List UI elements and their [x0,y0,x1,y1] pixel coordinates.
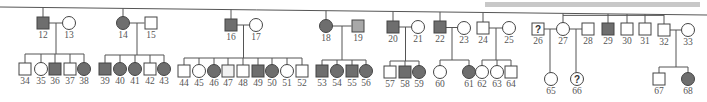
male-square-icon [582,23,594,35]
individual-29: 29 [602,23,614,46]
male-square-icon [222,65,234,77]
individual-18: 18 [320,20,333,44]
male-square-icon [639,23,651,35]
male-square-icon [225,19,237,31]
individual-label: 49 [253,78,263,88]
individual-48: 48 [237,65,249,88]
female-circle-icon [503,22,516,35]
individual-31: 31 [639,23,651,46]
individual-label: 51 [282,78,292,88]
individual-label: 34 [20,76,30,86]
individual-66: ?66 [571,73,584,97]
female-circle-icon [458,22,471,35]
female-circle-icon [117,17,130,30]
individual-label: 54 [332,78,342,88]
female-circle-icon [476,66,489,79]
individual-52: 52 [296,65,308,88]
individual-49: 49 [252,65,264,88]
individual-label: 64 [506,79,516,89]
individual-label: 32 [659,37,669,47]
male-square-icon [387,21,399,33]
male-square-icon [505,66,517,78]
individual-30: 30 [621,23,633,46]
individual-20: 20 [387,21,399,44]
individual-58: 58 [399,66,411,89]
individual-33: 33 [682,24,695,48]
male-square-icon [252,65,264,77]
individual-53: 53 [316,65,328,88]
female-circle-icon [434,66,447,79]
individual-label: 66 [572,86,582,96]
individual-label: 41 [130,76,140,86]
male-square-icon [658,24,670,36]
individual-64: 64 [505,66,517,89]
individual-label: 37 [65,76,75,86]
individual-label: 55 [347,78,357,88]
individual-label: 33 [683,37,693,47]
male-square-icon [144,63,156,75]
individual-42: 42 [144,63,156,86]
individual-label: 29 [603,36,613,46]
individual-label: 57 [385,79,395,89]
individual-17: 17 [250,19,263,43]
male-square-icon [384,66,396,78]
female-circle-icon [491,66,504,79]
individual-label: 13 [64,30,74,40]
individual-43: 43 [158,63,171,87]
individual-50: 50 [266,65,279,89]
male-square-icon [99,63,111,75]
individual-label: 44 [179,78,189,88]
male-square-icon [477,22,489,34]
individual-25: 25 [503,22,516,46]
individual-67: 67 [653,73,665,96]
individual-label: 67 [654,86,664,96]
individual-47: 47 [222,65,234,88]
female-circle-icon [208,65,221,78]
individual-label: 25 [504,35,514,45]
individual-54: 54 [331,65,344,89]
individual-57: 57 [384,66,396,89]
individual-label: 46 [209,78,219,88]
female-circle-icon [360,65,373,78]
individual-68: 68 [682,73,695,97]
individual-16: 16 [225,19,237,42]
pedigree-diagram: 1213141516171819202122232425?26272829303… [0,0,707,102]
male-square-icon [19,63,31,75]
individual-21: 21 [412,21,425,45]
individual-label: 45 [194,78,204,88]
top-sibship-line [0,7,707,15]
female-circle-icon [682,73,695,86]
individual-label: 40 [115,76,125,86]
individual-label: 18 [321,33,331,43]
individual-label: 31 [640,36,650,46]
individual-label: 12 [38,30,48,40]
individual-15: 15 [145,17,157,40]
individual-label: 27 [558,36,568,46]
individual-34: 34 [19,63,31,86]
individual-45: 45 [193,65,206,89]
individual-37: 37 [64,63,76,86]
individual-label: 53 [317,78,327,88]
individual-label: 39 [100,76,110,86]
individual-label: 56 [361,78,371,88]
female-circle-icon [78,63,91,76]
female-circle-icon [545,73,558,86]
individual-label: 35 [36,76,46,86]
individual-61: 61 [463,66,476,90]
individual-65: 65 [545,73,558,97]
male-square-icon [145,17,157,29]
individual-59: 59 [413,66,426,90]
individual-24: 24 [477,22,489,45]
individual-51: 51 [281,65,294,89]
pedigree-canvas: 1213141516171819202122232425?26272829303… [0,0,707,102]
male-square-icon [178,65,190,77]
individual-label: 16 [226,32,236,42]
individual-label: 22 [435,34,445,44]
female-circle-icon [281,65,294,78]
individual-label: 43 [159,76,169,86]
female-circle-icon [412,21,425,34]
individual-label: 20 [388,34,398,44]
individual-26: ?26 [532,23,544,46]
individual-62: 62 [476,66,489,90]
individual-label: 42 [145,76,155,86]
